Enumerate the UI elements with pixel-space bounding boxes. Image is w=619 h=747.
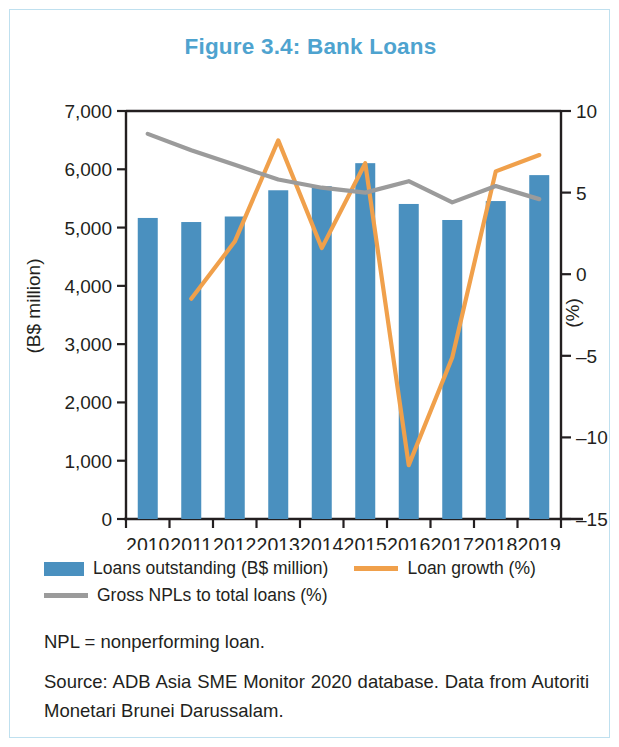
y-axis-right-tick-label: 5 (576, 183, 587, 204)
chart-bar (225, 216, 245, 519)
x-axis-tick-label: 2019 (518, 534, 561, 550)
bar-swatch-icon (44, 562, 84, 576)
chart-bar (268, 190, 288, 519)
x-axis-tick-label: 2015 (344, 534, 388, 550)
note-abbreviation: NPL = nonperforming loan. (44, 627, 589, 656)
legend-row-1: Loans outstanding (B$ million) Loan grow… (10, 555, 611, 582)
chart-line (148, 134, 540, 203)
chart-svg: 01,0002,0003,0004,0005,0006,0007,000–15–… (10, 10, 611, 550)
figure-notes: NPL = nonperforming loan. Source: ADB As… (44, 627, 589, 725)
line-swatch-orange-icon (354, 566, 398, 571)
y-axis-left-tick-label: 4,000 (64, 276, 112, 297)
x-axis-tick-label: 2013 (257, 534, 300, 550)
x-axis-tick-label: 2018 (474, 534, 517, 550)
x-axis-tick-label: 2012 (213, 534, 256, 550)
x-axis-tick-label: 2011 (170, 534, 212, 550)
chart-legend: Loans outstanding (B$ million) Loan grow… (10, 555, 611, 609)
legend-item-loans-outstanding: Loans outstanding (B$ million) (44, 558, 328, 579)
y-axis-left-tick-label: 6,000 (64, 159, 112, 180)
line-swatch-gray-icon (44, 593, 88, 598)
chart-plot-area: 01,0002,0003,0004,0005,0006,0007,000–15–… (10, 10, 611, 550)
y-axis-left-tick-label: 0 (101, 509, 112, 530)
legend-label-gross-npls: Gross NPLs to total loans (%) (97, 585, 328, 606)
y-axis-left-tick-label: 2,000 (64, 392, 112, 413)
x-axis-tick-label: 2010 (126, 534, 170, 550)
y-axis-left-tick-label: 5,000 (64, 218, 112, 239)
note-source: Source: ADB Asia SME Monitor 2020 databa… (44, 667, 589, 725)
chart-bar (399, 204, 419, 519)
legend-item-loan-growth: Loan growth (%) (354, 558, 535, 579)
y-axis-right-title: (%) (562, 273, 584, 353)
x-axis-tick-label: 2016 (387, 534, 430, 550)
y-axis-left-tick-label: 3,000 (64, 334, 112, 355)
legend-item-gross-npls: Gross NPLs to total loans (%) (44, 585, 328, 606)
chart-bar (486, 201, 506, 519)
legend-label-loan-growth: Loan growth (%) (407, 558, 535, 579)
legend-row-2: Gross NPLs to total loans (%) (10, 582, 611, 609)
chart-bar (529, 175, 549, 519)
y-axis-right-tick-label: –15 (576, 509, 608, 530)
y-axis-left-tick-label: 1,000 (64, 451, 112, 472)
x-axis-tick-label: 2014 (300, 534, 344, 550)
y-axis-right-tick-label: –10 (576, 427, 608, 448)
chart-bar (138, 218, 158, 519)
y-axis-left-tick-label: 7,000 (64, 101, 112, 122)
x-axis-tick-label: 2017 (431, 534, 474, 550)
chart-bar (181, 222, 201, 519)
y-axis-left-title: (B$ million) (23, 206, 45, 406)
figure-card: Figure 3.4: Bank Loans 01,0002,0003,0004… (9, 9, 610, 738)
legend-label-loans-outstanding: Loans outstanding (B$ million) (93, 558, 328, 579)
y-axis-right-tick-label: 10 (576, 101, 597, 122)
